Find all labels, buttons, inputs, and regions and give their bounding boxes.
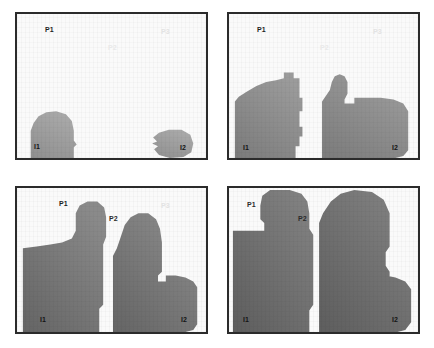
marker-p1: P1: [59, 200, 68, 207]
marker-p1: P1: [257, 26, 266, 33]
label-i2: I2: [392, 316, 398, 323]
label-i1: I1: [34, 143, 40, 150]
region-i2-shape: [319, 190, 411, 332]
marker-p3: P3: [161, 202, 170, 209]
region-i1-shape: [233, 190, 313, 332]
panel-a-canvas: [17, 14, 206, 158]
marker-p1: P1: [247, 201, 256, 208]
figure-panel-grid: P1 P2 P3 I1 I2 P1 P2 P3 I1 I: [0, 0, 434, 348]
panel-c: P1 P2 P3 I1 I2: [15, 186, 208, 334]
marker-p2: P2: [298, 215, 307, 222]
panel-c-canvas: [17, 188, 206, 332]
label-i1: I1: [243, 144, 249, 151]
panel-d: P1 P2 I1 I2: [227, 186, 420, 334]
label-i2: I2: [181, 316, 187, 323]
panel-d-canvas: [229, 188, 418, 332]
marker-p2: P2: [320, 44, 329, 51]
panel-a: P1 P2 P3 I1 I2: [15, 12, 208, 160]
region-i2-shape: [113, 213, 197, 332]
marker-p3: P3: [161, 28, 170, 35]
region-i1-shape: [31, 111, 77, 158]
marker-p1: P1: [45, 26, 54, 33]
marker-p3: P3: [373, 28, 382, 35]
label-i1: I1: [40, 316, 46, 323]
panel-b-canvas: [229, 14, 418, 158]
label-i2: I2: [180, 144, 186, 151]
marker-p2: P2: [108, 44, 117, 51]
region-i2-shape: [152, 130, 193, 158]
label-i1: I1: [243, 316, 249, 323]
label-i2: I2: [392, 144, 398, 151]
marker-p2: P2: [109, 215, 118, 222]
panel-b: P1 P2 P3 I1 I2: [227, 12, 420, 160]
region-i1-shape: [23, 202, 106, 332]
